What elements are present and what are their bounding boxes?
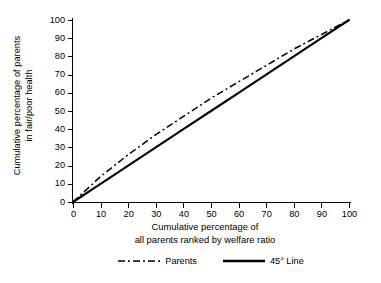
x-axis-tick-label: 80 <box>289 210 299 219</box>
x-axis-tick: 90 <box>321 203 322 208</box>
y-axis-title: Cumulative percentage of parents in fair… <box>0 0 48 210</box>
x-axis-tick: 80 <box>294 203 295 208</box>
y-axis-tick-label: 90 <box>55 34 65 43</box>
x-axis-tick-label: 10 <box>96 210 106 219</box>
y-axis-tick-label: 70 <box>55 70 65 79</box>
legend-item[interactable]: 45° Line <box>223 256 304 266</box>
y-axis-tick-label: 40 <box>55 125 65 134</box>
x-axis-tick: 10 <box>101 203 102 208</box>
x-axis-tick: 70 <box>266 203 267 208</box>
y-axis-title-line-2: in fair/poor health <box>24 35 36 175</box>
x-axis-title-line-1: Cumulative percentage of <box>60 221 350 234</box>
x-axis-title-line-2: all parents ranked by welfare ratio <box>60 234 350 247</box>
y-axis-tick-label: 20 <box>55 161 65 170</box>
dash-dot-line-icon <box>118 257 160 265</box>
series-line-45-degree <box>73 20 349 202</box>
y-axis-tick-label: 50 <box>55 107 65 116</box>
x-axis-tick-label: 60 <box>234 210 244 219</box>
y-axis-tick-label: 10 <box>55 180 65 189</box>
y-axis-tick-label: 30 <box>55 143 65 152</box>
x-axis-tick-label: 40 <box>179 210 189 219</box>
chart-legend: Parents45° Line <box>73 256 349 266</box>
x-axis-tick-label: 90 <box>317 210 327 219</box>
y-axis-tick-label: 60 <box>55 89 65 98</box>
y-axis-tick-label: 100 <box>50 16 65 25</box>
x-axis-tick: 20 <box>128 203 129 208</box>
y-axis-tick-label: 0 <box>60 198 65 207</box>
legend-item-label: 45° Line <box>270 256 304 266</box>
x-axis-tick-label: 100 <box>342 210 357 219</box>
x-axis-tick: 40 <box>183 203 184 208</box>
plot-area: 0102030405060708090100 01020304050607080… <box>73 20 349 202</box>
solid-line-icon <box>223 257 265 265</box>
y-axis-title-line-1: Cumulative percentage of parents <box>13 35 25 175</box>
x-axis-tick: 0 <box>73 203 74 208</box>
x-axis-title: Cumulative percentage of all parents ran… <box>60 221 350 246</box>
legend-item[interactable]: Parents <box>118 256 197 266</box>
x-axis-tick: 50 <box>211 203 212 208</box>
x-axis-tick-label: 30 <box>151 210 161 219</box>
x-axis-tick: 100 <box>349 203 350 208</box>
x-axis-tick: 30 <box>156 203 157 208</box>
x-axis-tick-label: 20 <box>124 210 134 219</box>
x-axis-tick-label: 50 <box>206 210 216 219</box>
series-lines <box>73 20 349 202</box>
y-axis-tick-label: 80 <box>55 52 65 61</box>
x-axis-tick-label: 0 <box>71 210 76 219</box>
x-axis-tick: 60 <box>239 203 240 208</box>
chart-figure: Cumulative percentage of parents in fair… <box>0 0 381 283</box>
legend-item-label: Parents <box>165 256 197 266</box>
x-axis-tick-label: 70 <box>262 210 272 219</box>
